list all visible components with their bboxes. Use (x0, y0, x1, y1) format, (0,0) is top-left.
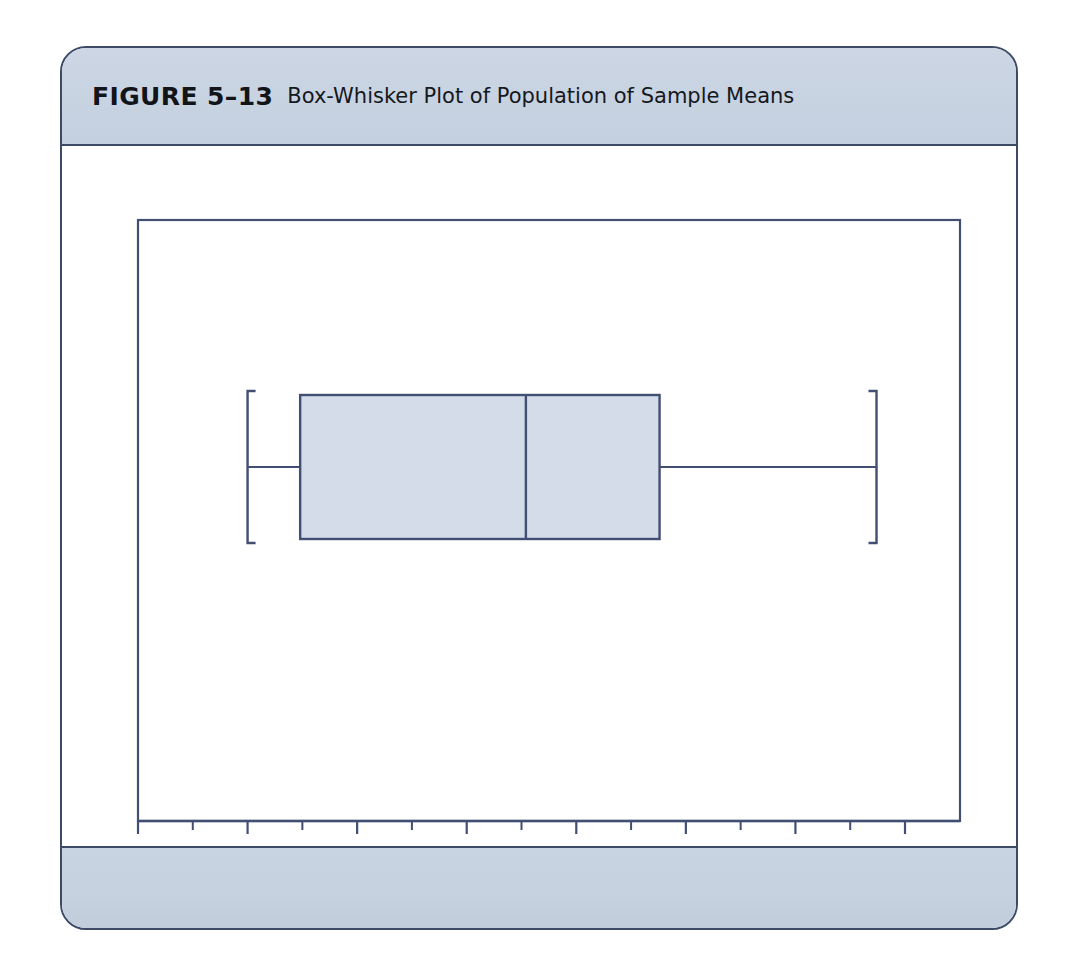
figure-footer-band (62, 846, 1016, 928)
box-whisker-chart: 5560657075808590 Mean (62, 146, 1016, 848)
figure-title: Box-Whisker Plot of Population of Sample… (287, 84, 794, 108)
x-axis-ticks (138, 821, 905, 834)
figure-card: FIGURE 5–13 Box-Whisker Plot of Populati… (60, 46, 1018, 930)
box-whisker-glyph (248, 391, 877, 543)
figure-header-band: FIGURE 5–13 Box-Whisker Plot of Populati… (62, 48, 1016, 146)
interquartile-box (300, 395, 659, 539)
figure-number-label: FIGURE 5–13 (92, 82, 273, 111)
plot-area: 5560657075808590 Mean (62, 146, 1016, 846)
